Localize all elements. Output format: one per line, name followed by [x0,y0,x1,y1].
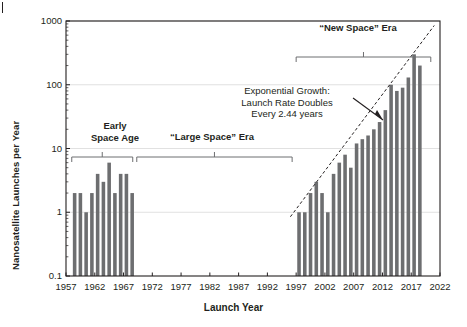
y-tick-label: 1 [20,207,62,217]
bracket-new-space [296,52,431,62]
y-tick-label: 1000 [20,16,62,26]
nanosatellite-launch-chart: Nanosatellite Launches per Year Launch Y… [0,0,467,327]
era-label-early-space-age: Early Space Age [80,120,150,143]
chart-canvas [0,0,467,327]
y-tick-label: 10 [20,144,62,154]
era-label-large-space: “Large Space” Era [152,131,272,143]
x-tick-label: 2022 [422,282,458,292]
y-tick-label: 0.1 [20,271,62,281]
x-axis-title: Launch Year [0,303,467,313]
exponential-growth-annotation: Exponential Growth: Launch Rate Doubles … [222,85,352,120]
bracket-large-space [137,152,292,162]
era-label-new-space: “New Space” Era [298,22,418,34]
y-tick-label: 100 [20,80,62,90]
bracket-early-space-age [72,152,133,162]
